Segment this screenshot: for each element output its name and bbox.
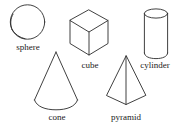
cylinder-icon xyxy=(142,7,170,61)
cone-icon xyxy=(28,50,84,112)
cone-label: cone xyxy=(36,113,78,122)
geometric-solids-figure: sphere cube cylinder cone pyramid xyxy=(0,0,182,130)
pyramid-icon xyxy=(104,54,148,108)
pyramid-label: pyramid xyxy=(98,113,154,122)
sphere-icon xyxy=(8,3,46,41)
